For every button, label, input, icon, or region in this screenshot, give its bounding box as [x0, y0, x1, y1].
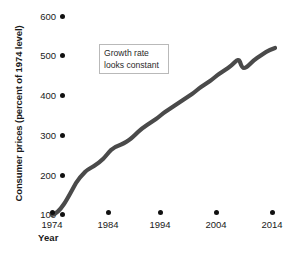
consumer-price-index-chart: Consumer prices (percent of 1974 level) … — [0, 0, 295, 258]
x-tick-label-2014: 2014 — [250, 219, 294, 230]
x-tick-dot-2014 — [270, 210, 275, 215]
x-tick-dot-1994 — [158, 210, 163, 215]
x-tick-label-2004: 2004 — [194, 219, 238, 230]
annotation-line-1: Growth rate — [104, 48, 168, 60]
x-tick-label-1984: 1984 — [86, 219, 130, 230]
x-tick-dot-2004 — [214, 210, 219, 215]
x-tick-label-1994: 1994 — [138, 219, 182, 230]
growth-rate-annotation: Growth rate looks constant — [99, 44, 169, 74]
x-axis-title: Year — [38, 232, 58, 243]
x-tick-label-1974: 1974 — [30, 219, 74, 230]
annotation-line-2: looks constant — [104, 60, 168, 72]
x-tick-dot-1984 — [106, 210, 111, 215]
x-tick-dot-1974 — [50, 210, 55, 215]
